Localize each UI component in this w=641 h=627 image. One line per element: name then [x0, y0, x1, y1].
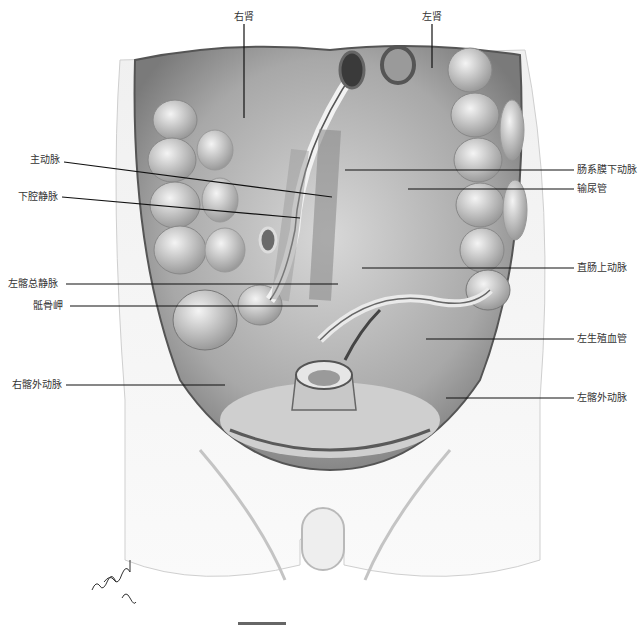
label-right-external-iliac-artery: 右髂外动脉	[12, 379, 62, 391]
label-sacral-promontory: 骶骨岬	[33, 300, 63, 312]
label-left-external-iliac-artery: 左髂外动脉	[577, 392, 627, 404]
label-ureter: 输尿管	[577, 183, 607, 195]
artist-signature	[92, 560, 136, 603]
label-left-common-iliac-vein: 左髂总静脉	[8, 278, 58, 290]
label-superior-rectal-artery: 直肠上动脉	[577, 262, 627, 274]
label-inferior-vena-cava: 下腔静脉	[18, 191, 58, 203]
bottom-rule	[238, 622, 286, 625]
illustration	[0, 0, 641, 627]
label-left-kidney: 左肾	[422, 11, 442, 23]
anatomy-figure: 右肾 左肾 主动脉 下腔静脉 左髂总静脉 骶骨岬 右髂外动脉 肠系膜下动脉 输尿…	[0, 0, 641, 627]
label-right-kidney: 右肾	[234, 11, 254, 23]
label-inferior-mesenteric-artery: 肠系膜下动脉	[577, 164, 637, 176]
label-left-gonadal-vessel: 左生殖血管	[577, 333, 627, 345]
label-aorta: 主动脉	[30, 154, 60, 166]
